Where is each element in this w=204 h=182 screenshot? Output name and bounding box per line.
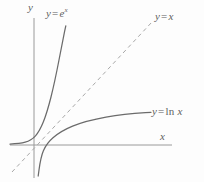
identity-line-label: y=x [155, 11, 174, 22]
x-axis-label: x [160, 131, 165, 142]
exponential-curve [10, 26, 66, 144]
exponential-label-operator: = [51, 7, 59, 19]
exponential-label-exponent: x [65, 6, 68, 14]
logarithm-label-function: ln [166, 105, 175, 117]
identity-label-rhs: x [169, 10, 174, 22]
y-axis-label: y [28, 2, 33, 13]
exponential-curve-label: y=ex [46, 8, 68, 19]
logarithm-label-operator: = [157, 105, 165, 117]
graph-canvas [0, 0, 204, 182]
figure-exponential-logarithm-graph: y x y=ex y=x y=ln x [0, 0, 204, 182]
logarithm-curve-label: y=ln x [152, 106, 183, 117]
identity-line-dashed [12, 22, 152, 172]
logarithm-label-argument: x [177, 105, 182, 117]
identity-label-operator: = [160, 10, 168, 22]
logarithm-curve [38, 112, 151, 176]
